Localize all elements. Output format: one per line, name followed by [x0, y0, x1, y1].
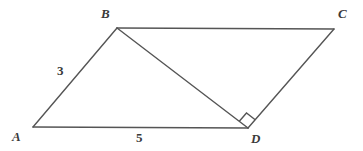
diagonal-bd-line	[117, 28, 248, 128]
side-bc-line	[117, 28, 334, 29]
geometry-figure: A B C D 3 5	[0, 0, 363, 151]
side-length-ab: 3	[57, 64, 64, 77]
right-angle-icon	[239, 113, 255, 121]
side-ad-line	[33, 127, 248, 128]
vertex-label-c: C	[338, 7, 347, 20]
vertex-label-b: B	[101, 7, 110, 20]
side-length-ad: 5	[136, 131, 143, 144]
figure-canvas	[0, 0, 363, 151]
vertex-label-d: D	[251, 132, 260, 145]
side-ab-line	[33, 28, 117, 127]
vertex-label-a: A	[12, 130, 21, 143]
side-cd-line	[248, 29, 334, 128]
